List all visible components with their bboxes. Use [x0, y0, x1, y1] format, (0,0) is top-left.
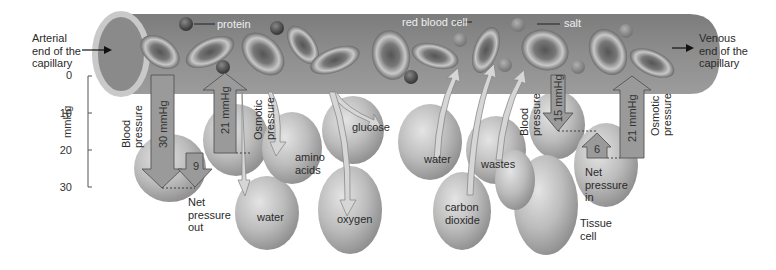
arterial-op-line-2: pressure	[264, 97, 276, 140]
carbon-dioxide-label: carbon dioxide	[445, 201, 480, 226]
arterial-line-2: end of the	[32, 45, 81, 58]
axis-tick-20: 20	[60, 144, 72, 156]
net-in-line-3: in	[585, 191, 628, 204]
amino-line-1: amino	[295, 151, 325, 164]
red-blood-cell-label: red blood cell	[402, 16, 467, 29]
venous-bp-value: 15 mmHg	[552, 74, 564, 122]
arterial-bp-line-1: Blood	[120, 105, 132, 148]
venous-line-3: capillary	[699, 57, 748, 70]
venous-op-line-2: pressure	[661, 93, 673, 136]
salt-label: salt	[564, 17, 581, 30]
carbon-line-1: carbon	[445, 201, 480, 214]
glucose-label: glucose	[352, 121, 390, 134]
axis-unit: mmHg	[61, 106, 73, 138]
wastes-label: wastes	[481, 158, 515, 171]
arterial-line-3: capillary	[32, 57, 81, 70]
venous-op-value: 21 mmHg	[626, 94, 638, 142]
venous-bp-label: Blood pressure	[518, 93, 542, 136]
venous-bp-line-1: Blood	[518, 93, 530, 136]
venous-line-1: Venous	[699, 32, 748, 45]
venous-op-line-1: Osmotic	[649, 93, 661, 136]
oxygen-label: oxygen	[337, 213, 372, 226]
net-out-line-3: out	[188, 221, 231, 234]
tissue-cell-label: Tissue cell	[580, 217, 612, 242]
amino-acids-label: amino acids	[295, 151, 325, 176]
arterial-bp-line-2: pressure	[132, 105, 144, 148]
tissue-line-1: Tissue	[580, 217, 612, 230]
arterial-end-label: Arterial end of the capillary	[32, 32, 81, 70]
arterial-net-value: 9	[193, 160, 199, 172]
axis-tick-30: 30	[60, 181, 72, 193]
tissue-line-2: cell	[580, 230, 612, 243]
axis-tick-0: 0	[66, 69, 72, 81]
water-out-label: water	[257, 211, 284, 224]
venous-line-2: end of the	[699, 45, 748, 58]
arterial-op-label: Osmotic pressure	[252, 97, 276, 140]
arterial-op-value: 21 mmHg	[219, 86, 231, 134]
net-pressure-in-label: Net pressure in	[585, 166, 628, 204]
protein-label: protein	[217, 18, 251, 31]
net-in-line-1: Net	[585, 166, 628, 179]
venous-op-label: Osmotic pressure	[649, 93, 673, 136]
mmhg-axis	[88, 76, 92, 187]
net-out-line-2: pressure	[188, 209, 231, 222]
arterial-op-line-1: Osmotic	[252, 97, 264, 140]
water-in-label: water	[424, 153, 451, 166]
venous-bp-line-2: pressure	[530, 93, 542, 136]
venous-end-label: Venous end of the capillary	[699, 32, 748, 70]
arterial-line-1: Arterial	[32, 32, 81, 45]
venous-net-value: 6	[594, 143, 600, 155]
amino-line-2: acids	[295, 164, 325, 177]
net-out-line-1: Net	[188, 196, 231, 209]
net-in-line-2: pressure	[585, 179, 628, 192]
arterial-bp-value: 30 mmHg	[157, 100, 169, 148]
arterial-bp-label: Blood pressure	[120, 105, 144, 148]
net-pressure-out-label: Net pressure out	[188, 196, 231, 234]
carbon-line-2: dioxide	[445, 214, 480, 227]
